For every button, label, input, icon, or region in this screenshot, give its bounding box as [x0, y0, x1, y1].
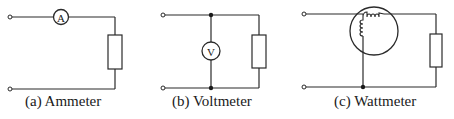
svg-text:V: V [207, 46, 215, 58]
caption-wattmeter: (c) Wattmeter [334, 93, 416, 110]
svg-text:A: A [57, 12, 65, 24]
wattmeter-icon [350, 7, 398, 55]
input-terminal-bottom [161, 86, 165, 90]
input-terminal-top [302, 12, 306, 16]
voltage-coil-icon [360, 17, 363, 36]
input-terminal-top [8, 15, 12, 19]
input-terminal-bottom [302, 85, 306, 89]
input-terminal-bottom [8, 87, 12, 91]
voltmeter-icon: V [202, 42, 220, 60]
load-resistor [108, 35, 122, 69]
junction-dot [209, 13, 213, 17]
caption-voltmeter: (b) Voltmeter [172, 93, 252, 110]
load-resistor [252, 35, 266, 68]
panel-ammeter: A [8, 10, 122, 92]
panel-voltmeter: V [161, 13, 266, 90]
panel-wattmeter [302, 7, 442, 89]
current-coil-icon [363, 12, 384, 17]
junction-dot [209, 86, 213, 90]
ammeter-icon: A [54, 10, 69, 25]
caption-ammeter: (a) Ammeter [25, 93, 101, 110]
load-resistor [430, 34, 442, 67]
junction-dot [361, 85, 365, 89]
input-terminal-top [161, 13, 165, 17]
